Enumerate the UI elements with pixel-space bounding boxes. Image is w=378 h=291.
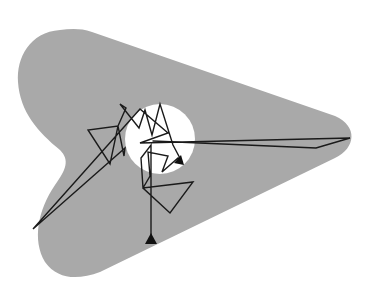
trajectory-diagram xyxy=(0,0,378,291)
diagram-canvas xyxy=(0,0,378,291)
